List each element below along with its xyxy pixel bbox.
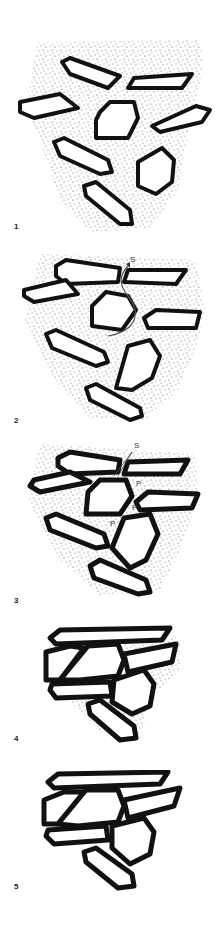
panel-2: S 2 <box>0 240 218 430</box>
panel-4-diagram <box>0 610 218 770</box>
panel-5: 5 <box>0 770 218 928</box>
panel-1: 1 <box>0 0 218 240</box>
panel-5-diagram <box>0 770 218 928</box>
pressure-label-p1: P <box>136 479 141 488</box>
pressure-label-p2: P <box>132 503 137 512</box>
panel-2-diagram: S <box>0 240 218 430</box>
panel-5-label: 5 <box>14 882 18 891</box>
panel-3-label: 3 <box>14 596 18 605</box>
panel-4: 4 <box>0 610 218 770</box>
panel-2-label: 2 <box>14 416 18 425</box>
pressure-label-p3: P <box>110 519 115 528</box>
solution-label-s: S <box>134 441 139 450</box>
panel-4-label: 4 <box>14 734 18 743</box>
panel-1-diagram <box>0 0 218 240</box>
panel-1-label: 1 <box>14 222 18 231</box>
solution-label-s: S <box>130 255 135 264</box>
panel-3-diagram: S P P P <box>0 430 218 610</box>
panel-3: S P P P 3 <box>0 430 218 610</box>
